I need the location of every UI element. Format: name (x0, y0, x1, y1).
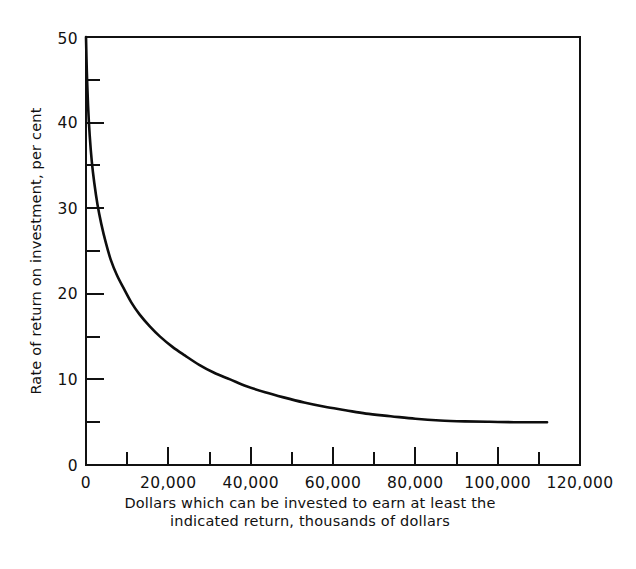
return-curve (86, 37, 547, 422)
x-tick-labels: 0 20,000 40,000 60,000 80,000 100,000 12… (81, 474, 614, 492)
x-axis-title-line1: Dollars which can be invested to earn at… (124, 495, 495, 511)
y-tick-labels: 0 10 20 30 40 50 (57, 30, 78, 475)
x-tick-label-60000: 60,000 (305, 474, 362, 492)
x-tick-label-120000: 120,000 (547, 474, 614, 492)
x-tick-label-100000: 100,000 (464, 474, 531, 492)
y-axis-title: Rate of return on investment, per cent (28, 107, 44, 394)
x-tick-label-0: 0 (81, 474, 91, 492)
x-tick-label-80000: 80,000 (387, 474, 444, 492)
y-tick-label-0: 0 (68, 457, 78, 475)
investment-return-chart: 0 10 20 30 40 50 0 20,000 40,000 60,000 … (0, 0, 636, 569)
chart-figure: 0 10 20 30 40 50 0 20,000 40,000 60,000 … (0, 0, 636, 569)
y-tick-label-10: 10 (57, 371, 78, 389)
y-tick-label-30: 30 (57, 200, 78, 218)
data-series-group (86, 37, 547, 422)
y-tick-label-40: 40 (57, 114, 78, 132)
x-tick-label-20000: 20,000 (140, 474, 197, 492)
y-tick-label-20: 20 (57, 285, 78, 303)
x-axis-ticks (86, 447, 580, 465)
y-tick-label-50: 50 (57, 30, 78, 48)
x-tick-label-40000: 40,000 (222, 474, 279, 492)
plot-frame (86, 37, 580, 465)
x-axis-title-line2: indicated return, thousands of dollars (170, 513, 450, 529)
